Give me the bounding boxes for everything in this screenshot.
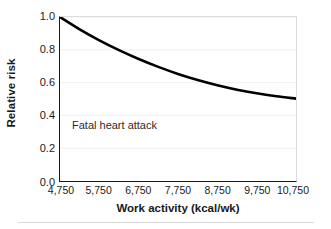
bottom-divider: [18, 222, 314, 223]
x-tick-label: 6,750: [125, 184, 151, 196]
y-tick-label: 0.2: [40, 143, 55, 154]
y-axis-tick-labels: 0.00.20.40.60.81.0: [22, 10, 57, 186]
y-tick-label: 0.4: [40, 110, 55, 121]
y-tick-label: 1.0: [40, 11, 55, 22]
x-tick-label: 8,750: [205, 184, 231, 196]
x-tick-label: 5,750: [86, 184, 112, 196]
y-tick-label: 0.8: [40, 44, 55, 55]
data-curve-fatal-heart-attack: [60, 17, 296, 99]
x-tick-label: 4,750: [48, 184, 74, 196]
plot-area: Fatal heart attack: [59, 16, 297, 182]
y-axis-title: Relative risk: [0, 0, 22, 185]
y-tick-label: 0.6: [40, 77, 55, 88]
x-axis-tick-labels: 4,7505,7506,7507,7508,7509,75010,750: [59, 184, 297, 200]
x-tick-label: 7,750: [165, 184, 191, 196]
chart-figure: Relative risk 0.00.20.40.60.81.0 Fatal h…: [0, 0, 331, 229]
x-axis-title: Work activity (kcal/wk): [59, 202, 297, 214]
annotation-fatal-heart-attack: Fatal heart attack: [72, 119, 157, 131]
x-tick-label: 9,750: [244, 184, 270, 196]
plot-svg: [60, 17, 296, 181]
y-axis-title-text: Relative risk: [5, 58, 17, 127]
x-tick-label: 10,750: [277, 184, 309, 196]
